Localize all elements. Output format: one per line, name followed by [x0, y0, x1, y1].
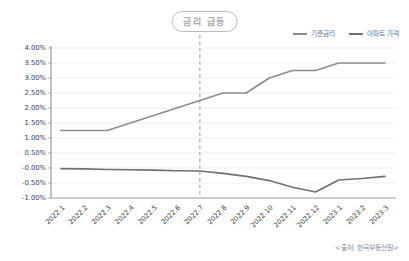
base-rate-line-swatch-icon — [293, 33, 307, 35]
y-tick-label: -0.00% — [22, 164, 47, 172]
annotation-badge: 금리 급등 — [171, 11, 238, 32]
legend-label-apartment-price: 아파트 가격 — [367, 31, 399, 38]
source-note: <출처: 한국부동산원> — [335, 242, 399, 252]
y-tick-label: 0.50% — [24, 149, 46, 157]
series-line-0 — [61, 63, 385, 131]
interest-rate-chart-panel: 4.00%3.50%3.00%2.50%2.00%1.50%1.00%0.50%… — [0, 0, 409, 261]
legend-label-base-rate: 기준금리 — [311, 31, 335, 38]
line-chart-svg: 4.00%3.50%3.00%2.50%2.00%1.50%1.00%0.50%… — [0, 0, 409, 261]
x-tick-label: 2023.3 — [368, 204, 390, 226]
x-tick-label: 2022.5 — [137, 204, 159, 226]
x-tick-label: 2022.12 — [295, 204, 321, 230]
chart-legend: 기준금리 아파트 가격 — [293, 31, 399, 38]
x-tick-label: 2022.7 — [183, 204, 205, 226]
x-tick-label: 2022.3 — [90, 204, 112, 226]
y-tick-label: -0.50% — [22, 179, 47, 187]
y-tick-label: 3.00% — [24, 74, 46, 82]
x-tick-label: 2022.4 — [113, 204, 135, 226]
x-tick-label: 2022.9 — [229, 204, 251, 226]
legend-item-base-rate: 기준금리 — [293, 31, 335, 38]
y-tick-label: -1.00% — [22, 194, 47, 202]
series-line-1 — [61, 169, 385, 192]
y-tick-label: 4.00% — [24, 44, 46, 52]
annotation-badge-label: 금리 급등 — [183, 17, 226, 27]
x-tick-label: 2022.2 — [67, 204, 89, 226]
x-tick-label: 2022.11 — [272, 204, 298, 230]
x-tick-label: 2023.1 — [322, 204, 344, 226]
y-tick-label: 2.50% — [24, 89, 46, 97]
y-tick-label: 1.00% — [24, 134, 46, 142]
x-tick-label: 2023.2 — [345, 204, 367, 226]
apartment-price-line-swatch-icon — [349, 33, 363, 35]
y-tick-label: 2.00% — [24, 104, 46, 112]
y-tick-label: 1.50% — [24, 119, 46, 127]
y-tick-label: 3.50% — [24, 59, 46, 67]
x-tick-label: 2022.1 — [44, 204, 66, 226]
legend-item-apartment-price: 아파트 가격 — [349, 31, 399, 38]
x-tick-label: 2022.10 — [249, 204, 275, 230]
x-tick-label: 2022.8 — [206, 204, 228, 226]
x-tick-label: 2022.6 — [160, 204, 182, 226]
